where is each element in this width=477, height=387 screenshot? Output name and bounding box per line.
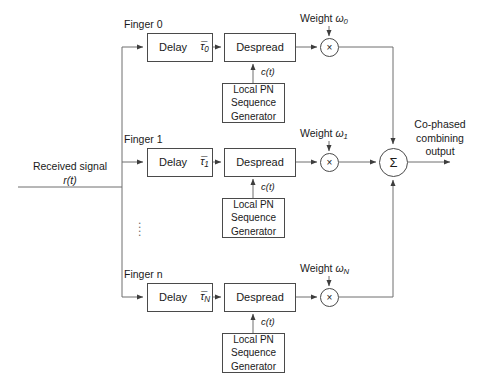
despread-block-n: Despread bbox=[224, 283, 296, 312]
pn-line1-1: Local PN bbox=[233, 198, 274, 211]
pn-generator-block-n: Local PN Sequence Generator bbox=[222, 333, 285, 373]
vertical-ellipsis: .... bbox=[138, 218, 141, 234]
finger-label-n: Finger n bbox=[124, 268, 163, 282]
pn-line3-0: Generator bbox=[231, 110, 276, 123]
delay-block-0: Delay τ̅0 bbox=[147, 33, 213, 62]
output-line1: Co-phased bbox=[414, 118, 465, 130]
delay-block-label-n: Delay bbox=[159, 291, 187, 304]
delay-block-label-0: Delay bbox=[159, 41, 187, 54]
pn-line1-0: Local PN bbox=[233, 83, 274, 96]
multiplier-0: × bbox=[320, 38, 339, 57]
pn-line1-n: Local PN bbox=[233, 333, 274, 346]
finger-label-1: Finger 1 bbox=[124, 133, 163, 147]
code-signal-label-0: c(t) bbox=[261, 66, 275, 78]
delay-block-n: Delay τ̅N bbox=[147, 283, 213, 312]
despread-block-1: Despread bbox=[224, 148, 296, 177]
despread-block-0: Despread bbox=[224, 33, 296, 62]
delay-symbol-1: τ̅1 bbox=[200, 155, 209, 170]
code-signal-label-1: c(t) bbox=[261, 181, 275, 193]
output-line3: output bbox=[425, 145, 454, 157]
received-signal-line1: Received signal bbox=[33, 160, 107, 172]
received-signal-line2: r(t) bbox=[63, 174, 76, 186]
delay-block-1: Delay τ̅1 bbox=[147, 148, 213, 177]
multiplier-n: × bbox=[320, 288, 339, 307]
pn-line2-1: Sequence bbox=[231, 211, 276, 224]
pn-line3-n: Generator bbox=[231, 360, 276, 373]
pn-line2-n: Sequence bbox=[231, 346, 276, 359]
weight-label-0: Weight ω0 bbox=[300, 12, 348, 27]
pn-generator-block-1: Local PN Sequence Generator bbox=[222, 198, 285, 238]
wire-multn-to-summer bbox=[339, 180, 393, 297]
delay-symbol-0: τ̅0 bbox=[200, 40, 209, 55]
code-signal-label-n: c(t) bbox=[261, 316, 275, 328]
delay-symbol-n: τ̅N bbox=[200, 290, 210, 305]
received-signal-label: Received signal r(t) bbox=[18, 160, 122, 187]
weight-label-1: Weight ω1 bbox=[300, 127, 348, 142]
diagram-canvas: Received signal r(t) Finger 0 Delay τ̅0 … bbox=[0, 0, 477, 387]
output-line2: combining bbox=[416, 132, 464, 144]
pn-line2-0: Sequence bbox=[231, 96, 276, 109]
weight-label-n: Weight ωN bbox=[300, 262, 349, 277]
finger-label-0: Finger 0 bbox=[124, 18, 163, 32]
pn-generator-block-0: Local PN Sequence Generator bbox=[222, 83, 285, 123]
pn-line3-1: Generator bbox=[231, 225, 276, 238]
multiplier-1: × bbox=[320, 153, 339, 172]
output-label: Co-phased combining output bbox=[406, 118, 474, 159]
delay-block-label-1: Delay bbox=[159, 156, 187, 169]
summer-block: Σ bbox=[379, 148, 408, 177]
